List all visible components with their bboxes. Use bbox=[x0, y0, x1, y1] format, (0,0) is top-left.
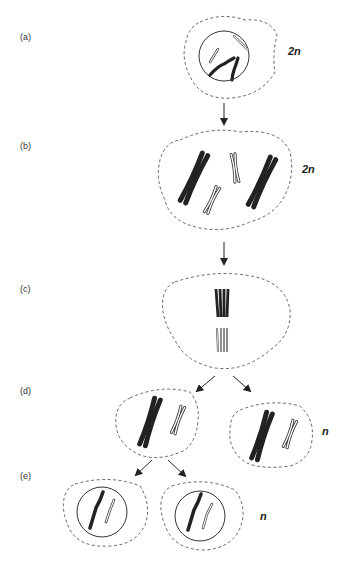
cell-e-left-membrane bbox=[63, 479, 147, 546]
chromosomes-c bbox=[216, 289, 228, 352]
cell-b-membrane bbox=[158, 130, 291, 229]
meiosis-diagram bbox=[0, 0, 346, 562]
nucleus-a bbox=[199, 31, 249, 81]
chromosomes-d bbox=[140, 398, 297, 460]
cell-c-membrane bbox=[163, 274, 291, 369]
chromosomes-e bbox=[90, 492, 212, 530]
cell-d-left-membrane bbox=[116, 389, 199, 457]
cell-a-membrane bbox=[184, 16, 277, 98]
cell-e-right-membrane bbox=[161, 482, 243, 550]
chromosomes-b bbox=[180, 153, 275, 213]
